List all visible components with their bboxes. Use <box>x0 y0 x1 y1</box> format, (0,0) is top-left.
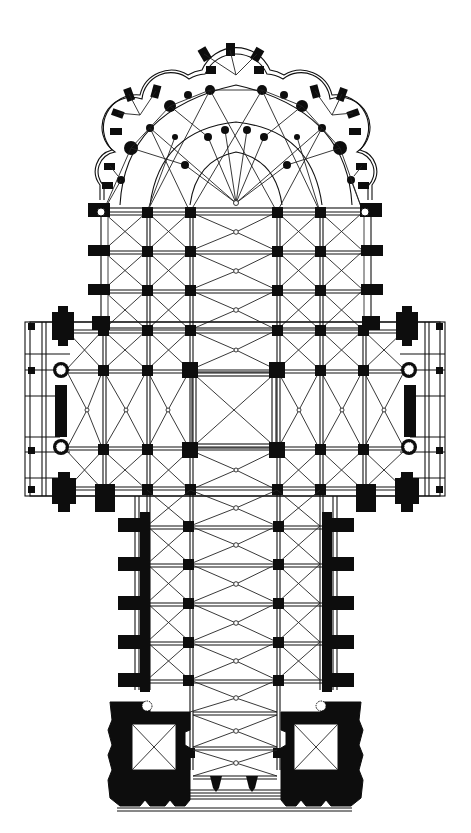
transept <box>25 306 445 512</box>
chevet <box>95 43 376 212</box>
west-front <box>108 701 363 811</box>
